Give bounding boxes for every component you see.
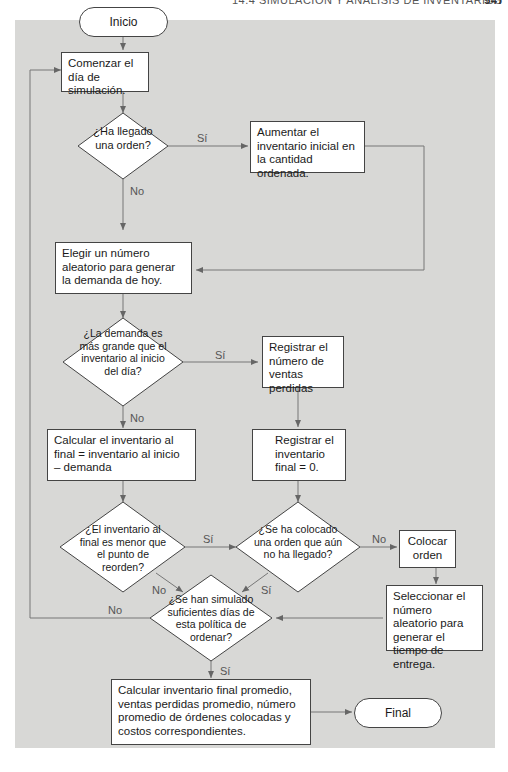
step-random-demand: Elegir un número aleatorio para generar … — [55, 242, 192, 294]
step-text: Registrar el número de ventas perdidas — [269, 341, 328, 394]
step-text: Aumentar el inventario inicial en la can… — [257, 126, 355, 179]
decision-text-enough-days: ¿Se han simulado suficientes días de est… — [163, 593, 259, 643]
step-text: Elegir un número aleatorio para generar … — [62, 247, 175, 286]
label-no: No — [108, 604, 122, 616]
end-label: Final — [385, 706, 411, 720]
step-text: Calcular inventario final promedio, vent… — [118, 684, 296, 737]
step-record-lost-sales: Registrar el número de ventas perdidas — [262, 336, 344, 388]
decision-text-demand-gt-inventory: ¿La demanda es más grande que el inventa… — [75, 327, 171, 377]
step-calc-ending-inventory: Calcular el inventario al final = invent… — [47, 429, 196, 481]
end-terminal: Final — [354, 698, 442, 728]
step-text: Comenzar el día de simulación. — [68, 57, 133, 96]
step-record-zero-inventory: Registrar el inventario final = 0. — [252, 429, 346, 481]
label-yes: Sí — [197, 132, 207, 144]
step-text: Calcular el inventario al final = invent… — [54, 434, 180, 473]
step-random-lead-time: Seleccionar el número aleatorio para gen… — [386, 585, 483, 651]
step-place-order: Colocar orden — [399, 530, 456, 568]
step-compute-results: Calcular inventario final promedio, vent… — [111, 679, 311, 745]
label-yes: Sí — [215, 349, 225, 361]
decision-text-below-reorder: ¿El inventario al final es menor que el … — [78, 523, 168, 573]
label-yes: Sí — [261, 584, 271, 596]
label-no: No — [130, 412, 144, 424]
step-text: Registrar el inventario final = 0. — [275, 434, 334, 473]
start-terminal: Inicio — [79, 7, 168, 37]
label-yes: Sí — [203, 533, 213, 545]
label-yes: Sí — [220, 665, 230, 677]
step-text: Colocar orden — [408, 535, 448, 561]
start-label: Inicio — [109, 15, 137, 29]
label-no: No — [372, 533, 386, 545]
step-increase-inventory: Aumentar el inventario inicial en la can… — [250, 121, 365, 173]
decision-text-order-pending: ¿Se ha colocado una orden que aún no ha … — [252, 523, 344, 561]
label-no: No — [130, 185, 144, 197]
step-begin-day: Comenzar el día de simulación. — [61, 52, 149, 92]
decision-text-order-arrived: ¿Ha llegado una orden? — [90, 125, 156, 152]
